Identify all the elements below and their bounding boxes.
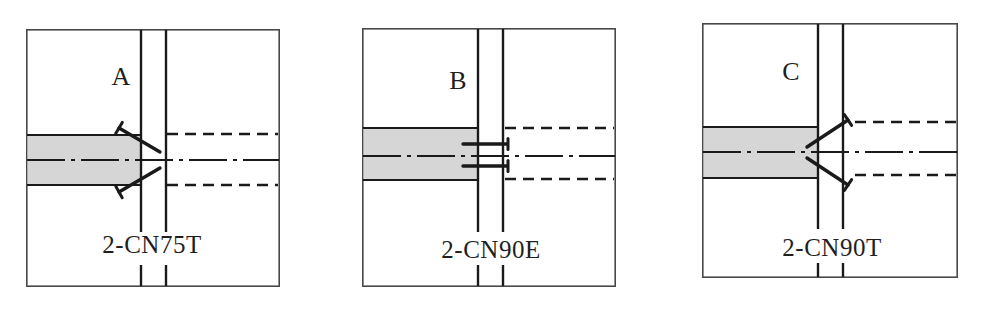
panel-a-caption: 2-CN75T [102,232,201,257]
nailing-detail-figure: A 2-CN75T [0,0,987,321]
panel-b-label: B [449,68,466,94]
panel-c: C 2-CN90T [702,23,958,278]
hidden-beam-lines [855,122,956,175]
panel-c-label: C [782,59,799,85]
panel-b: B 2-CN90E [362,28,616,287]
panel-c-caption: 2-CN90T [782,235,881,260]
panel-a: A 2-CN75T [26,29,280,287]
panel-b-caption: 2-CN90E [441,237,540,262]
beam-member-fill [364,129,478,179]
panel-a-label: A [112,64,131,90]
hidden-beam-lines [505,128,614,179]
